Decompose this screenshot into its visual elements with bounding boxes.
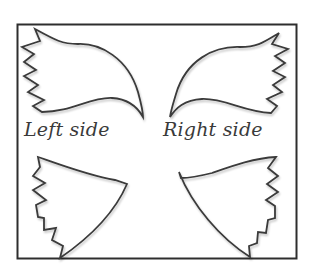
- wing-template-diagram: Left side Right side: [0, 0, 310, 273]
- left-side-label: Left side: [24, 118, 110, 140]
- upper-right-wing: [170, 33, 288, 117]
- frame-border: [18, 25, 297, 259]
- right-side-label: Right side: [163, 118, 263, 140]
- upper-left-wing: [22, 29, 143, 117]
- lower-right-wing: [179, 157, 278, 257]
- lower-left-wing: [33, 157, 127, 258]
